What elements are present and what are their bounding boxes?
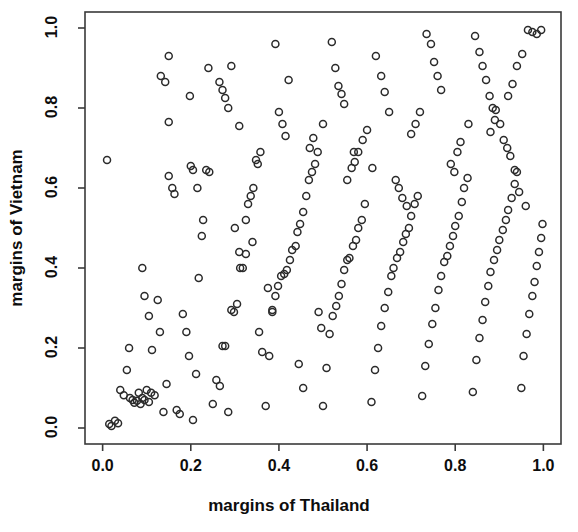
data-point xyxy=(141,293,148,300)
data-point xyxy=(162,79,169,86)
data-point xyxy=(485,283,492,290)
data-point xyxy=(333,303,340,310)
data-point xyxy=(216,383,223,390)
data-point xyxy=(358,217,365,224)
data-point xyxy=(378,73,385,80)
data-point xyxy=(165,173,172,180)
data-point xyxy=(209,401,216,408)
data-point xyxy=(392,177,399,184)
data-point xyxy=(275,283,282,290)
data-point xyxy=(419,393,426,400)
data-point xyxy=(194,185,201,192)
y-tick-label: 0.2 xyxy=(43,324,61,370)
data-point xyxy=(249,239,256,246)
data-point xyxy=(332,65,339,72)
data-point xyxy=(315,309,322,316)
data-point xyxy=(423,31,430,38)
data-point xyxy=(529,293,536,300)
data-point xyxy=(395,185,402,192)
data-point xyxy=(247,193,254,200)
x-tick-label: 0.4 xyxy=(256,457,302,475)
data-point xyxy=(408,131,415,138)
data-point xyxy=(469,389,476,396)
data-point xyxy=(279,121,286,128)
data-point xyxy=(533,263,540,270)
data-point xyxy=(359,137,366,144)
data-point xyxy=(458,199,465,206)
data-point xyxy=(381,305,388,312)
data-point xyxy=(361,201,368,208)
data-point xyxy=(186,353,193,360)
data-point xyxy=(256,329,263,336)
data-point xyxy=(461,185,468,192)
data-point xyxy=(183,329,190,336)
data-point xyxy=(454,149,461,156)
data-point xyxy=(496,237,503,244)
data-point xyxy=(425,341,432,348)
data-point xyxy=(483,77,490,84)
data-point xyxy=(465,121,472,128)
data-point xyxy=(519,51,526,58)
data-point xyxy=(451,169,458,176)
data-point xyxy=(513,63,520,70)
data-point xyxy=(257,149,264,156)
data-point xyxy=(509,81,516,88)
data-point xyxy=(520,353,527,360)
data-point xyxy=(193,371,200,378)
data-point xyxy=(272,293,279,300)
data-point xyxy=(310,135,317,142)
data-point xyxy=(457,139,464,146)
data-point xyxy=(300,209,307,216)
axis-ticks xyxy=(78,28,543,451)
data-point xyxy=(163,381,170,388)
x-tick-label: 0.0 xyxy=(80,457,126,475)
data-point xyxy=(372,53,379,60)
y-tick-label: 0.6 xyxy=(43,164,61,210)
data-point xyxy=(222,95,229,102)
data-point xyxy=(259,349,266,356)
data-point xyxy=(522,203,529,210)
data-point xyxy=(431,59,438,66)
data-point xyxy=(104,157,111,164)
y-axis-title-wrap: margins of Vietnam xyxy=(0,0,34,456)
y-tick-label: 1.0 xyxy=(43,4,61,50)
data-point xyxy=(364,127,371,134)
data-point xyxy=(452,223,459,230)
data-point xyxy=(397,249,404,256)
data-point xyxy=(388,273,395,280)
data-point xyxy=(320,403,327,410)
data-point xyxy=(148,347,155,354)
data-point xyxy=(264,285,271,292)
data-point xyxy=(499,227,506,234)
data-point xyxy=(231,225,238,232)
data-point xyxy=(486,93,493,100)
data-point xyxy=(305,177,312,184)
data-point xyxy=(386,109,393,116)
data-point xyxy=(272,41,279,48)
data-point xyxy=(476,49,483,56)
data-point-group xyxy=(104,27,546,430)
data-point xyxy=(312,161,319,168)
data-point xyxy=(479,317,486,324)
data-point xyxy=(216,79,223,86)
data-point xyxy=(329,313,336,320)
data-point xyxy=(236,249,243,256)
data-point xyxy=(228,63,235,70)
data-point xyxy=(464,175,471,182)
plot-frame xyxy=(85,12,561,444)
data-point xyxy=(335,293,342,300)
data-point xyxy=(295,361,302,368)
data-point xyxy=(500,137,507,144)
data-point xyxy=(535,249,542,256)
data-point xyxy=(219,87,226,94)
data-point xyxy=(372,367,379,374)
data-point xyxy=(195,275,202,282)
data-point xyxy=(526,311,533,318)
data-point xyxy=(390,265,397,272)
data-point xyxy=(385,289,392,296)
y-tick-label: 0.0 xyxy=(43,404,61,450)
data-point xyxy=(186,93,193,100)
data-point xyxy=(275,109,282,116)
data-point xyxy=(403,203,410,210)
data-point xyxy=(234,301,241,308)
